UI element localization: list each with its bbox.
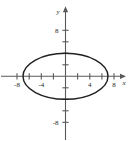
x-tick-label--4: -4 <box>38 81 44 89</box>
x-tick-label-8: 8 <box>112 81 116 89</box>
x-tick-label--8: -8 <box>14 81 20 89</box>
coordinate-plane-svg: -8 -4 4 8 8 -8 y x <box>0 0 130 141</box>
y-tick-label--8: -8 <box>53 119 59 127</box>
x-axis-label: x <box>122 79 127 87</box>
y-axis-label: y <box>55 8 60 16</box>
graph-figure: -8 -4 4 8 8 -8 y x <box>0 0 130 141</box>
x-tick-label-4: 4 <box>88 81 92 89</box>
y-tick-label-8: 8 <box>55 27 59 35</box>
y-axis-arrow-icon <box>63 6 68 12</box>
